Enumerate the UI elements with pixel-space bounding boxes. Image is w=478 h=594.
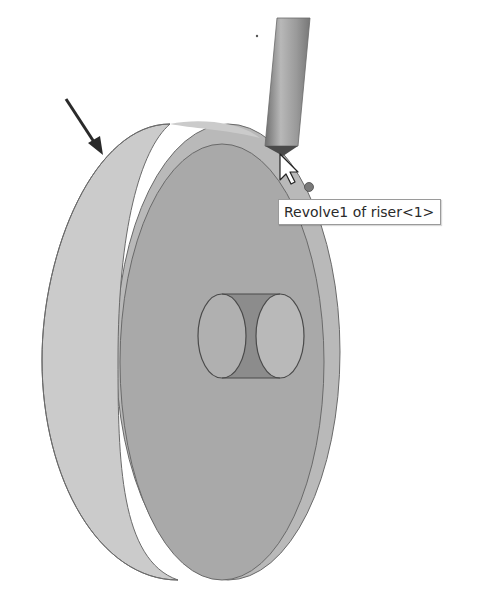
selection-point-icon	[305, 183, 314, 192]
graphics-viewport[interactable]: Revolve1 of riser<1>	[0, 0, 478, 594]
tool-probe[interactable]	[265, 18, 310, 156]
through-hole[interactable]	[198, 294, 304, 378]
stray-dot	[256, 35, 258, 37]
entity-tooltip: Revolve1 of riser<1>	[278, 199, 441, 225]
annotation-arrow-icon	[66, 99, 103, 155]
